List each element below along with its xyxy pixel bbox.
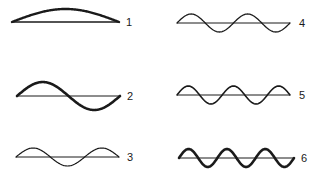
harmonic-number-label: 5 (299, 89, 305, 101)
harmonic-panel-2: 2 (17, 82, 133, 110)
harmonic-number-label: 4 (299, 17, 305, 29)
harmonic-panel-4: 4 (177, 14, 305, 32)
harmonic-panel-6: 6 (179, 149, 307, 167)
harmonic-number-label: 1 (126, 16, 132, 28)
harmonic-number-label: 2 (127, 90, 133, 102)
harmonic-panels: 123456 (12, 9, 307, 167)
harmonic-number-label: 6 (301, 152, 307, 164)
harmonic-panel-5: 5 (177, 86, 305, 104)
harmonic-panel-1: 1 (12, 9, 132, 28)
harmonic-panel-3: 3 (16, 148, 133, 166)
standing-wave-diagram: 123456 (0, 0, 317, 184)
standing-wave-curve (12, 9, 119, 22)
harmonic-number-label: 3 (127, 151, 133, 163)
